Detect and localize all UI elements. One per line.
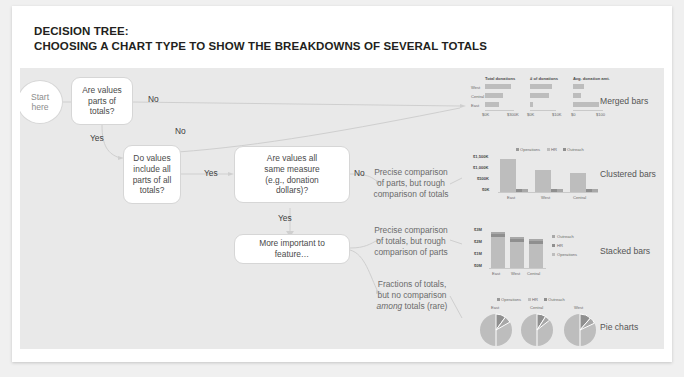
stacked-ytick-1: $1M	[474, 251, 482, 256]
title-line-1: DECISION TREE:	[34, 24, 594, 39]
chart-stacked-bars[interactable]: $3M $2M $1M $0M East West Central Outrea…	[470, 222, 605, 280]
node-q1-label: Are values parts of totals?	[82, 85, 122, 117]
stacked-legend-label-0: Outreach	[557, 234, 574, 239]
clustered-legend-swatch-0	[516, 148, 519, 151]
node-start-label: Start here	[31, 92, 49, 113]
merged-axis-2	[573, 110, 603, 111]
page-title: DECISION TREE: CHOOSING A CHART TYPE TO …	[34, 24, 594, 53]
stacked-ytick-0: $0M	[474, 263, 482, 268]
merged-xtick-2-1: $100	[596, 112, 605, 117]
stacked-legend-label-1: HR	[557, 243, 563, 248]
merged-xtick-0-0: $0K	[482, 112, 489, 117]
stacked-legend-label-2: Operations	[557, 252, 577, 257]
clustered-bar-west-operations	[535, 170, 551, 192]
stacked-bar-central-operations	[529, 244, 543, 268]
chart-type-label-merged: Merged bars	[600, 96, 648, 106]
merged-bar-0-2	[485, 102, 499, 107]
clustered-legend-label-2: Outreach	[567, 147, 584, 152]
merged-row-label-west: West	[471, 85, 480, 90]
merged-bar-1-1	[530, 93, 549, 98]
clustered-ytick-1: $500K	[477, 176, 489, 181]
stacked-bar-west-hr	[510, 239, 524, 242]
merged-row-label-east: East	[471, 103, 479, 108]
merged-bar-2-0	[573, 84, 584, 89]
clustered-x-axis	[498, 192, 598, 193]
merged-bar-2-1	[573, 93, 581, 98]
stacked-bar-central-hr	[529, 241, 543, 244]
clustered-ytick-3: $1,500K	[473, 154, 488, 159]
decision-tree-panel: Start here Are values parts of totals? D…	[20, 68, 664, 349]
stacked-ytick-3: $3M	[474, 227, 482, 232]
description-precise-totals: Precise comparison of totals, but rough …	[367, 225, 455, 257]
clustered-legend-label-1: HR	[551, 147, 557, 152]
chart-merged-bars[interactable]: Total donations # of donations Avg. dona…	[470, 76, 610, 126]
pie-legend-label-1: HR	[532, 297, 538, 302]
pie-legend-label-2: Outreach	[548, 297, 565, 302]
chart-clustered-bars[interactable]: Operations HR Outreach $1,500K $1,000K $…	[470, 146, 605, 204]
node-more-important-to-feature[interactable]: More important to feature…	[234, 234, 350, 264]
merged-panel-title-2: Avg. donation amt.	[573, 76, 610, 81]
merged-axis-0	[485, 110, 514, 111]
stacked-legend-swatch-2	[552, 253, 555, 256]
stacked-bar-west-operations	[510, 242, 524, 268]
merged-bar-0-1	[485, 93, 503, 98]
clustered-xtick-west: West	[541, 195, 550, 200]
clustered-ytick-0: $0K	[482, 187, 490, 192]
chart-pie-charts[interactable]: Operations HR Outreach East Central West	[470, 296, 605, 349]
clustered-xtick-east: East	[507, 195, 515, 200]
clustered-legend-label-0: Operations	[520, 147, 540, 152]
description-fractions-part-a: Fractions of totals, but no comparison	[378, 279, 447, 300]
clustered-legend-swatch-2	[563, 148, 566, 151]
stacked-bar-central-outreach	[529, 239, 543, 241]
merged-bar-0-0	[485, 84, 511, 89]
edge-label-q3-no: No	[354, 168, 365, 178]
clustered-bar-east-outreach	[522, 189, 528, 192]
clustered-bar-east-operations	[500, 159, 516, 192]
stacked-xtick-central: Central	[527, 271, 540, 276]
pie-legend-swatch-1	[528, 298, 531, 301]
edge-label-q2-no: No	[175, 126, 186, 136]
clustered-legend-swatch-1	[547, 148, 550, 151]
description-precise-parts: Precise comparison of parts, but rough c…	[367, 167, 455, 199]
chart-type-label-clustered: Clustered bars	[600, 169, 656, 179]
node-q4-label: More important to feature…	[259, 238, 325, 259]
stacked-ytick-2: $2M	[474, 239, 482, 244]
description-fractions-emphasis: among	[377, 301, 403, 311]
pie-legend-swatch-2	[544, 298, 547, 301]
clustered-xtick-central: Central	[573, 195, 586, 200]
pie-legend-swatch-0	[497, 298, 500, 301]
edge-label-q1-yes: Yes	[90, 133, 104, 143]
merged-xtick-1-0: $0K	[527, 112, 534, 117]
pie-svg-group	[470, 310, 605, 349]
merged-panel-title-1: # of donations	[530, 76, 558, 81]
clustered-bar-central-operations	[570, 173, 586, 192]
merged-panel-title-0: Total donations	[485, 76, 515, 81]
stacked-bar-east-operations	[491, 237, 505, 268]
stacked-xtick-west: West	[511, 271, 520, 276]
edge-label-q3-yes: Yes	[278, 213, 292, 223]
stacked-legend-swatch-1	[552, 244, 555, 247]
description-fractions-part-b: totals (rare)	[402, 301, 447, 311]
stacked-xtick-east: East	[492, 271, 500, 276]
merged-bar-1-2	[530, 102, 533, 107]
merged-bar-1-0	[530, 84, 552, 89]
clustered-bar-central-outreach	[592, 189, 598, 192]
node-q2-label: Do values include all parts of all total…	[133, 153, 172, 195]
chart-type-label-stacked: Stacked bars	[600, 246, 650, 256]
edge-label-q1-no: No	[148, 94, 159, 104]
stacked-bar-east-hr	[491, 234, 505, 237]
clustered-ytick-2: $1,000K	[473, 165, 488, 170]
slide-card: DECISION TREE: CHOOSING A CHART TYPE TO …	[12, 6, 672, 362]
node-question-same-measure[interactable]: Are values all same measure (e.g., donat…	[234, 146, 350, 203]
merged-xtick-1-1: $10K	[552, 112, 562, 117]
stacked-legend-swatch-0	[552, 235, 555, 238]
stacked-bar-east-outreach	[491, 232, 505, 234]
description-fractions-of-totals: Fractions of totals, but no comparison a…	[367, 279, 457, 311]
node-q3-label: Are values all same measure (e.g., donat…	[264, 153, 319, 195]
node-question-parts-of-totals[interactable]: Are values parts of totals?	[71, 77, 133, 125]
node-question-include-all-parts[interactable]: Do values include all parts of all total…	[123, 145, 181, 204]
edge-label-q2-yes: Yes	[204, 168, 218, 178]
stacked-bar-west-outreach	[510, 237, 524, 239]
merged-row-label-central: Central	[471, 94, 484, 99]
title-line-2: CHOOSING A CHART TYPE TO SHOW THE BREAKD…	[34, 39, 594, 54]
